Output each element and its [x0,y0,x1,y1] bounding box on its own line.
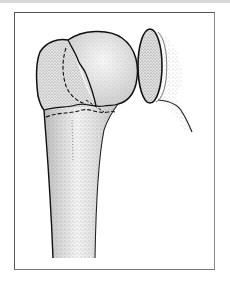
humerus-fracture-illustration [0,0,230,283]
humeral-shaft [44,104,118,258]
